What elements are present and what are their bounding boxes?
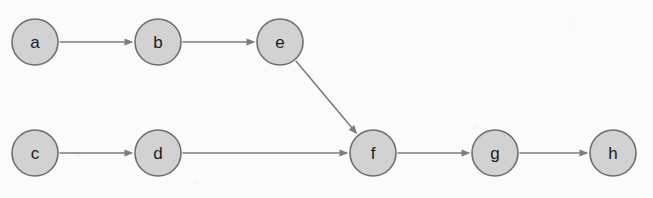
graph-node-f[interactable]: f xyxy=(350,130,396,176)
node-label: g xyxy=(490,144,499,163)
arrow-head-icon xyxy=(125,149,134,156)
node-label: a xyxy=(30,33,40,52)
graph-node-b[interactable]: b xyxy=(135,19,181,65)
graph-edge-c-d[interactable] xyxy=(60,149,134,156)
arrow-head-icon xyxy=(125,38,134,45)
arrow-head-icon xyxy=(462,149,471,156)
graph-edge-a-b[interactable] xyxy=(60,38,134,45)
graph-edge-e-f[interactable] xyxy=(296,61,358,134)
graph-edge-f-g[interactable] xyxy=(398,149,471,156)
graph-edge-g-h[interactable] xyxy=(520,149,589,156)
graph-node-e[interactable]: e xyxy=(257,19,303,65)
node-label: c xyxy=(31,144,40,163)
node-label: e xyxy=(275,33,284,52)
graph-svg: abecdfgh xyxy=(0,0,653,198)
graph-node-d[interactable]: d xyxy=(135,130,181,176)
arrow-head-icon xyxy=(580,149,589,156)
graph-edge-b-e[interactable] xyxy=(183,38,256,45)
graph-node-c[interactable]: c xyxy=(12,130,58,176)
graph-edge-d-f[interactable] xyxy=(183,149,349,156)
diagram-canvas: abecdfgh xyxy=(0,0,653,198)
edge-line xyxy=(296,61,353,129)
arrow-head-icon xyxy=(340,149,349,156)
graph-node-g[interactable]: g xyxy=(472,130,518,176)
node-label: b xyxy=(153,33,162,52)
node-label: f xyxy=(371,144,376,163)
graph-node-h[interactable]: h xyxy=(590,130,636,176)
node-label: d xyxy=(153,144,162,163)
graph-node-a[interactable]: a xyxy=(12,19,58,65)
arrow-head-icon xyxy=(247,38,256,45)
node-label: h xyxy=(608,144,617,163)
